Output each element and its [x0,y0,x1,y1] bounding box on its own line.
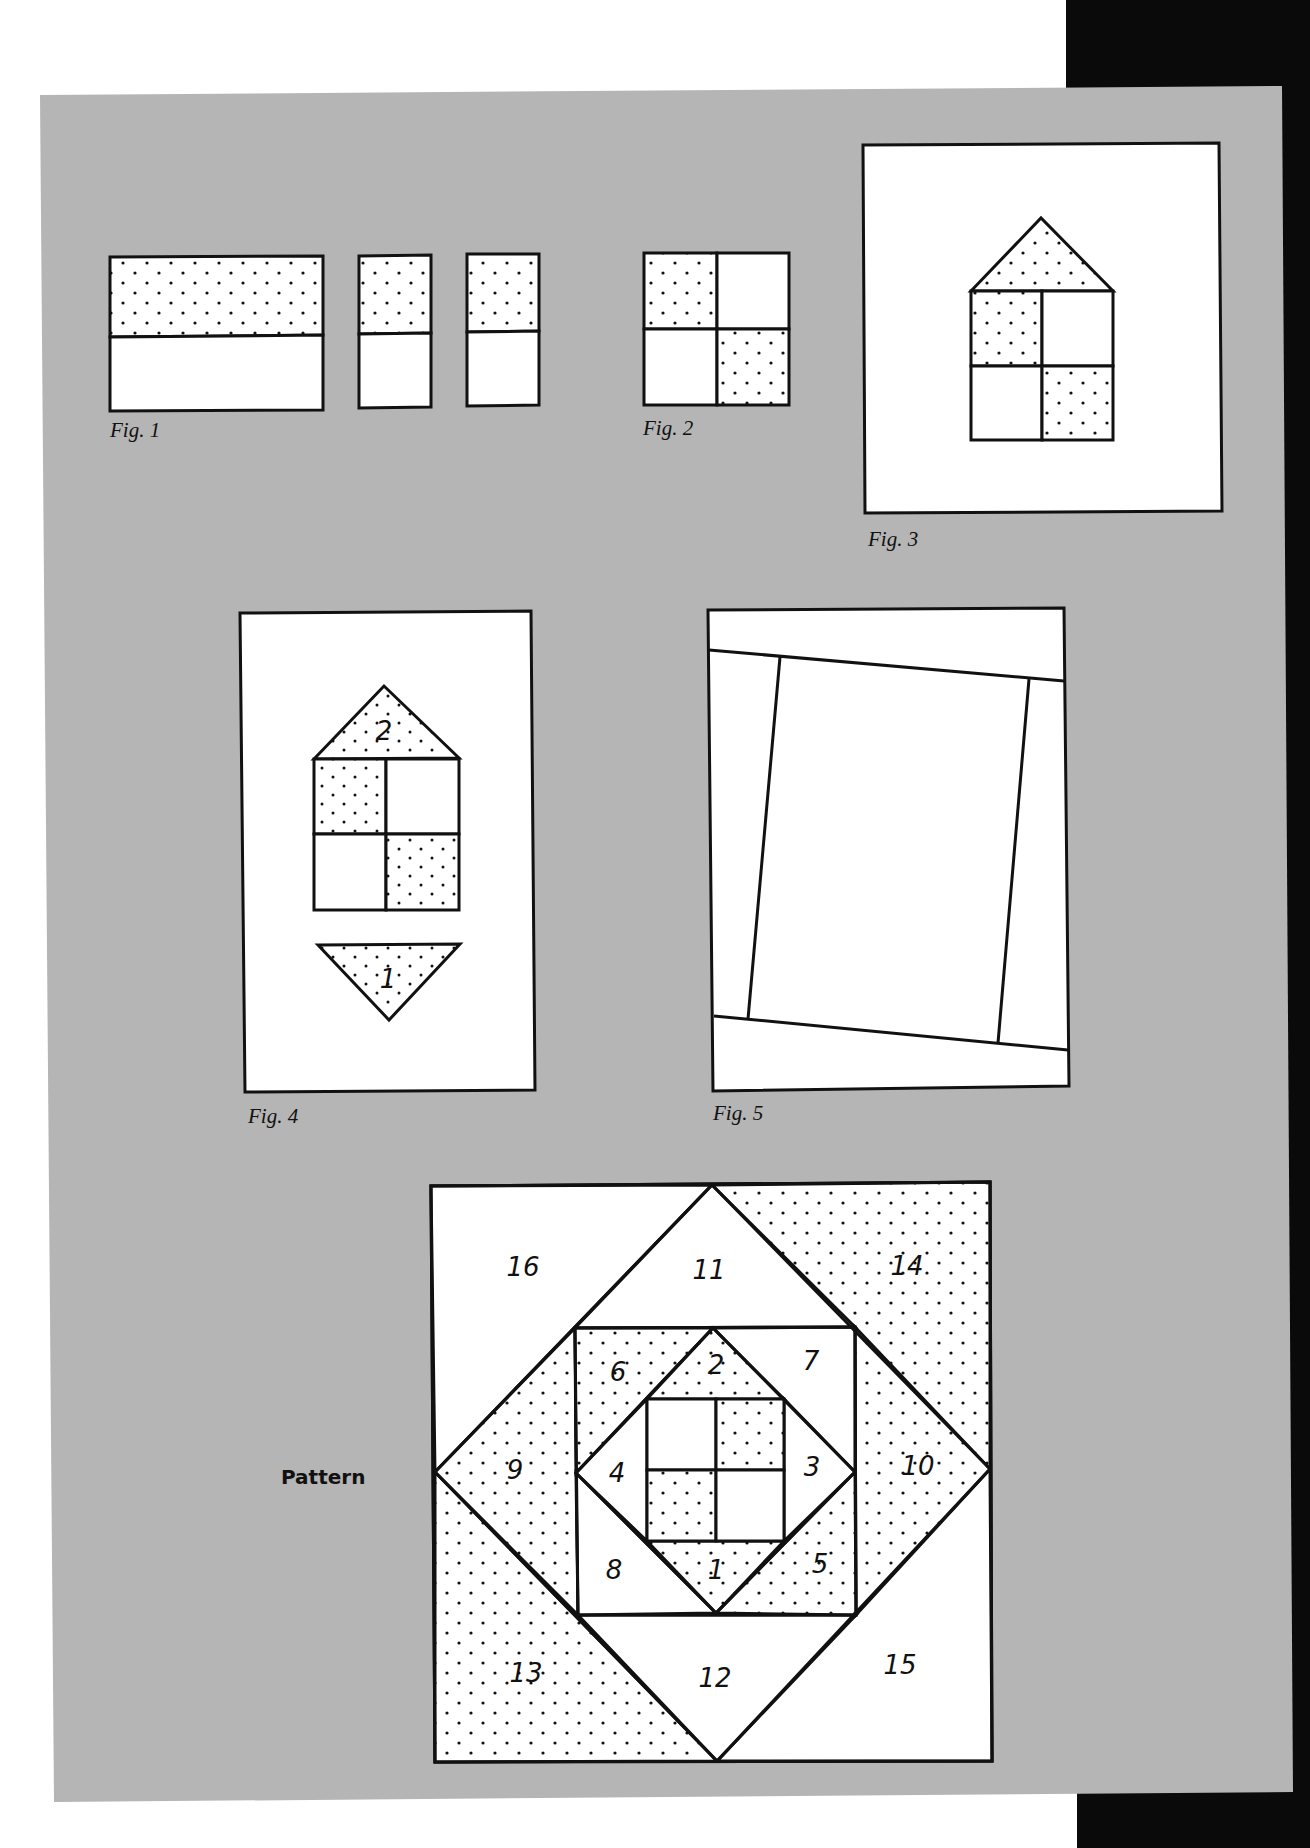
pattern-num-3: 3 [804,1452,821,1482]
pattern-num-14: 14 [890,1251,923,1281]
fig1-segment-1-dotted [359,255,431,334]
pattern-num-4: 4 [609,1458,626,1488]
fig5-label: Fig. 5 [712,1101,763,1125]
fig1-strip-white [110,335,323,411]
fig1 [110,254,539,411]
fig2-cell-br [717,329,789,405]
fig1-segment-1-white [359,333,431,408]
pattern-num-15: 15 [883,1650,916,1680]
fig1-segment-2-dotted [467,254,539,332]
fig4-cell-bl [314,834,386,910]
fig3 [863,143,1222,513]
center-cell-tl [647,1399,716,1470]
fig2 [644,253,789,405]
pattern-num-9: 9 [507,1455,524,1485]
fig5 [708,608,1069,1091]
fig4-label: Fig. 4 [247,1104,299,1128]
fig3-cell-tr [1042,291,1113,366]
pattern-num-13: 13 [509,1658,542,1688]
pattern-num-11: 11 [692,1255,725,1285]
fig4-cell-br [386,834,459,910]
fig3-label: Fig. 3 [867,527,918,551]
fig2-cell-bl [644,329,717,405]
pattern-num-10: 10 [901,1451,934,1481]
pattern-label: Pattern [281,1465,365,1489]
pattern-num-7: 7 [803,1346,820,1376]
fig3-cell-br [1042,366,1113,440]
fig4-piece-label-1: 1 [380,964,397,994]
center-cell-bl [647,1470,716,1541]
fig1-label: Fig. 1 [109,418,160,442]
fig4 [240,611,535,1092]
pattern-num-2: 2 [708,1350,725,1380]
fig4-cell-tr [386,759,459,834]
fig3-cell-tl [971,291,1042,366]
pattern-num-5: 5 [812,1549,829,1579]
pattern-num-1: 1 [708,1555,725,1585]
pattern-num-16: 16 [506,1252,539,1282]
center-cell-tr [716,1399,784,1470]
fig2-cell-tl [644,253,717,329]
pattern-num-8: 8 [606,1555,623,1585]
fig2-cell-tr [717,253,789,329]
pattern-num-12: 12 [698,1663,731,1693]
pattern-num-6: 6 [610,1357,627,1387]
fig4-piece-label-2: 2 [376,716,393,746]
center-cell-br [716,1470,784,1541]
diagram-sheet: Fig. 1 Fig. 2 Fig. 3 Fig. 4 Fig. 5 2 1 P… [0,0,1310,1848]
fig2-label: Fig. 2 [642,416,694,440]
fig1-segment-2-white [467,331,539,406]
fig1-strip-dotted [110,256,323,337]
fig4-cell-tl [314,759,386,834]
fig3-cell-bl [971,366,1042,440]
